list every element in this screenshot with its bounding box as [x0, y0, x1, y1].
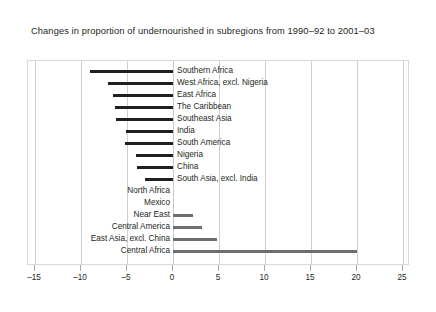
bar-row: Central Africa	[28, 245, 408, 258]
bar-label: India	[177, 125, 195, 137]
tick-label: 5	[198, 273, 238, 282]
bar	[173, 214, 193, 216]
bar	[173, 226, 202, 228]
bar	[173, 238, 217, 240]
x-axis: –15–10–50510152025	[27, 265, 409, 295]
bar-label: South Asia, excl. India	[177, 173, 258, 185]
tick-label: 15	[290, 273, 330, 282]
tick-label: 25	[382, 273, 422, 282]
chart-title: Changes in proportion of undernourished …	[31, 26, 375, 36]
bar	[90, 70, 173, 73]
bar-label: North Africa	[28, 185, 170, 197]
bar	[136, 154, 173, 157]
bar	[173, 250, 357, 252]
tick-mark	[402, 265, 403, 271]
bar-label: Near East	[28, 209, 170, 221]
bar-label: The Caribbean	[177, 101, 231, 113]
bar	[108, 82, 173, 85]
tick-label: –5	[106, 273, 146, 282]
bar-label: Central America	[28, 221, 170, 233]
bar-label: West Africa, excl. Nigeria	[177, 77, 268, 89]
tick-mark	[264, 265, 265, 271]
bar-label: Nigeria	[177, 149, 203, 161]
bars-container: Southern AfricaWest Africa, excl. Nigeri…	[28, 61, 408, 264]
bar-label: China	[177, 161, 198, 173]
tick-mark	[172, 265, 173, 271]
bar	[115, 106, 173, 109]
tick-label: –15	[14, 273, 54, 282]
bar	[116, 118, 173, 121]
bar	[126, 130, 173, 133]
tick-mark	[126, 265, 127, 271]
bar	[145, 178, 173, 181]
tick-label: 10	[244, 273, 284, 282]
bar-label: Central Africa	[28, 245, 170, 257]
bar	[125, 142, 173, 145]
tick-mark	[80, 265, 81, 271]
bar-label: Mexico	[28, 197, 170, 209]
tick-mark	[218, 265, 219, 271]
bar-label: Southeast Asia	[177, 113, 232, 125]
bar-label: East Africa	[177, 89, 216, 101]
bar-label: Southern Africa	[177, 65, 233, 77]
tick-label: 0	[152, 273, 192, 282]
bar-label: South America	[177, 137, 230, 149]
tick-mark	[34, 265, 35, 271]
tick-mark	[356, 265, 357, 271]
plot-area: Southern AfricaWest Africa, excl. Nigeri…	[27, 60, 409, 265]
chart-figure: Changes in proportion of undernourished …	[0, 0, 436, 312]
tick-label: 20	[336, 273, 376, 282]
bar-label: East Asia, excl. China	[28, 233, 170, 245]
tick-mark	[310, 265, 311, 271]
bar	[113, 94, 173, 97]
tick-label: –10	[60, 273, 100, 282]
bar	[137, 166, 173, 169]
